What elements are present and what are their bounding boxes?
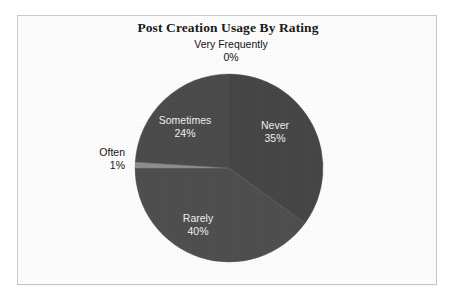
pie-label-never-percent: 35% <box>240 132 310 145</box>
pie-label-very-frequently-name: Very Frequently <box>151 38 311 51</box>
pie-label-sometimes: Sometimes 24% <box>140 114 230 139</box>
pie-label-very-frequently-percent: 0% <box>151 51 311 64</box>
pie-label-very-frequently: Very Frequently 0% <box>151 38 311 63</box>
pie-label-often-name: Often <box>73 146 125 159</box>
pie-label-rarely-percent: 40% <box>158 225 238 238</box>
pie-chart-plot-area: Never 35% Rarely 40% Often 1% Sometimes … <box>18 16 438 286</box>
pie-label-rarely-name: Rarely <box>158 212 238 225</box>
pie-label-sometimes-percent: 24% <box>140 127 230 140</box>
pie-label-never-name: Never <box>240 119 310 132</box>
pie-label-rarely: Rarely 40% <box>158 212 238 237</box>
pie-label-never: Never 35% <box>240 119 310 144</box>
pie-label-sometimes-name: Sometimes <box>140 114 230 127</box>
chart-frame: Post Creation Usage By Rating Never 35% … <box>17 15 437 285</box>
pie-label-often: Often 1% <box>73 146 125 171</box>
pie-label-often-percent: 1% <box>73 159 125 172</box>
